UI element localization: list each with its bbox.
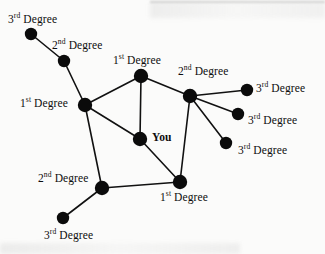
node-label-n2a: 2nd Degree xyxy=(52,40,102,52)
graph-node-n3r1[interactable] xyxy=(241,84,253,96)
graph-edge xyxy=(85,76,141,105)
node-label-n1T: 1st Degree xyxy=(113,55,161,67)
node-label-n3r1: 3rd Degree xyxy=(256,83,305,95)
node-label-n2B: 2nd Degree xyxy=(38,173,88,185)
node-label-n1L: 1st Degree xyxy=(20,98,68,110)
node-label-n3a: 3rd Degree xyxy=(8,14,57,26)
graph-node-n3a[interactable] xyxy=(25,28,37,40)
graph-edge xyxy=(180,96,190,182)
network-graph-canvas xyxy=(0,0,325,254)
graph-node-n2a[interactable] xyxy=(58,55,70,67)
graph-node-n3b[interactable] xyxy=(57,212,69,224)
graph-node-n1B[interactable] xyxy=(173,175,187,189)
graph-edge xyxy=(140,76,141,139)
node-label-n3r3: 3rd Degree xyxy=(238,145,287,157)
graph-node-n3r2[interactable] xyxy=(232,108,244,120)
graph-edge xyxy=(141,76,190,96)
graph-node-n3r3[interactable] xyxy=(220,137,232,149)
node-label-you: You xyxy=(152,132,171,144)
node-label-n2R: 2nd Degree xyxy=(178,66,228,78)
graph-edge xyxy=(63,188,102,218)
graph-node-n1T[interactable] xyxy=(134,69,148,83)
node-label-n3r2: 3rd Degree xyxy=(248,115,297,127)
network-diagram-figure: 3rd Degree2nd Degree1st Degree1st Degree… xyxy=(0,0,325,254)
graph-node-you[interactable] xyxy=(133,132,147,146)
node-label-n3b: 3rd Degree xyxy=(44,230,93,242)
graph-node-n2R[interactable] xyxy=(183,89,197,103)
graph-node-n2B[interactable] xyxy=(95,181,109,195)
graph-node-n1L[interactable] xyxy=(78,98,92,112)
node-label-n1B: 1st Degree xyxy=(160,192,208,204)
graph-edge xyxy=(85,105,140,139)
graph-edge xyxy=(140,139,180,182)
graph-edge xyxy=(190,90,247,96)
graph-edge xyxy=(102,182,180,188)
